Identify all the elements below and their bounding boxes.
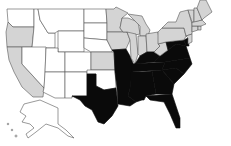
state-arkansas (115, 72, 132, 88)
state-new-mexico (65, 72, 87, 98)
state-florida (146, 94, 180, 128)
state-north-dakota (84, 9, 107, 23)
state-south-dakota (84, 23, 107, 40)
us-map (0, 0, 231, 146)
state-rhode-island (198, 26, 201, 30)
state-iowa (107, 32, 130, 50)
state-colorado (65, 52, 91, 72)
state-kansas (91, 52, 115, 70)
state-hawaii (7, 123, 17, 137)
state-washington (7, 9, 34, 27)
state-wyoming (58, 31, 84, 52)
state-arizona (43, 72, 65, 98)
state-connecticut (192, 26, 198, 32)
state-alaska (20, 100, 74, 138)
